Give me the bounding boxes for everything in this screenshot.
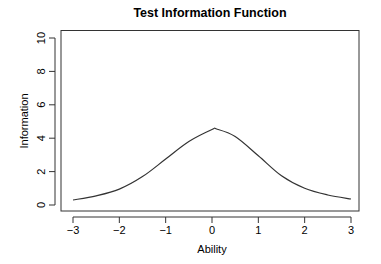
- x-tick-label: 3: [348, 224, 354, 236]
- y-tick-label: 4: [35, 135, 47, 141]
- y-tick-label: 2: [35, 169, 47, 175]
- x-axis: −3−2−10123: [67, 217, 354, 236]
- information-curve: [73, 128, 351, 200]
- y-tick-label: 8: [35, 68, 47, 74]
- plot-area-box: [61, 31, 359, 212]
- y-tick-label: 0: [35, 202, 47, 208]
- chart-container: Test Information Function 0246810 −3−2−1…: [0, 0, 381, 264]
- y-axis-label: Information: [18, 93, 30, 148]
- x-tick-label: −3: [67, 224, 80, 236]
- x-axis-label: Ability: [197, 243, 227, 255]
- x-tick-label: −1: [159, 224, 172, 236]
- y-tick-label: 6: [35, 102, 47, 108]
- y-axis: 0246810: [35, 32, 55, 208]
- x-tick-label: 0: [209, 224, 215, 236]
- chart-title: Test Information Function: [133, 6, 286, 20]
- x-tick-label: 1: [255, 224, 261, 236]
- x-tick-label: 2: [302, 224, 308, 236]
- x-tick-label: −2: [113, 224, 126, 236]
- y-tick-label: 10: [35, 32, 47, 44]
